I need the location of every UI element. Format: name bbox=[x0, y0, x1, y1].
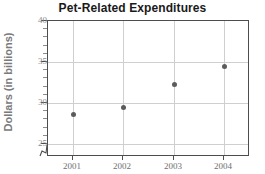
y-tick-label-30: 30 bbox=[31, 98, 47, 107]
y-minor-tick-29 bbox=[43, 110, 47, 111]
y-minor-tick-39 bbox=[43, 28, 47, 29]
y-minor-tick-31 bbox=[43, 94, 47, 95]
gridline-2001 bbox=[73, 21, 74, 155]
gridline-2002 bbox=[123, 21, 124, 155]
gridline-2004 bbox=[224, 21, 225, 155]
x-tick-label-2004: 2004 bbox=[203, 161, 243, 171]
y-tick-label-40: 40 bbox=[31, 16, 47, 25]
data-point-2001 bbox=[71, 112, 76, 117]
chart-title: Pet-Related Expenditures bbox=[0, 1, 265, 15]
gridline-25 bbox=[48, 144, 248, 145]
y-minor-tick-34 bbox=[43, 69, 47, 70]
x-tick-label-2001: 2001 bbox=[52, 161, 92, 171]
x-tick-2001 bbox=[72, 156, 73, 160]
x-tick-label-2002: 2002 bbox=[102, 161, 142, 171]
y-minor-tick-36 bbox=[43, 53, 47, 54]
x-tick-2004 bbox=[223, 156, 224, 160]
gridline-2003 bbox=[174, 21, 175, 155]
y-minor-tick-26 bbox=[43, 135, 47, 136]
y-minor-tick-33 bbox=[43, 77, 47, 78]
y-tick-label-35: 35 bbox=[31, 57, 47, 66]
plot-area bbox=[47, 20, 249, 156]
gridline-35 bbox=[48, 62, 248, 63]
data-point-2002 bbox=[121, 105, 126, 110]
y-minor-tick-27 bbox=[43, 127, 47, 128]
y-axis-label: Dollars (in billions) bbox=[2, 32, 14, 131]
y-axis-label-container: Dollars (in billions) bbox=[0, 20, 16, 144]
y-minor-tick-37 bbox=[43, 45, 47, 46]
data-point-2004 bbox=[222, 64, 227, 69]
y-minor-tick-38 bbox=[43, 36, 47, 37]
chart-screenshot: Pet-Related Expenditures Dollars (in bil… bbox=[0, 0, 265, 174]
y-minor-tick-28 bbox=[43, 118, 47, 119]
x-tick-label-2003: 2003 bbox=[153, 161, 193, 171]
data-point-2003 bbox=[172, 82, 177, 87]
x-tick-2002 bbox=[122, 156, 123, 160]
axis-break-icon bbox=[38, 143, 50, 157]
x-tick-2003 bbox=[173, 156, 174, 160]
y-minor-tick-32 bbox=[43, 86, 47, 87]
gridline-30 bbox=[48, 103, 248, 104]
